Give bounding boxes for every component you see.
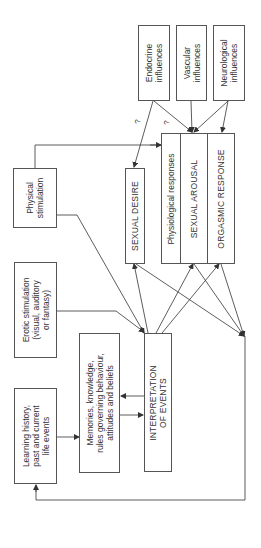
neurological-label: Neurological influences [219, 39, 239, 86]
uncertain-marker: ? [133, 119, 142, 123]
memories-box: Memories, knowledge, rules governing beh… [79, 333, 120, 473]
physiological-label: Physiological responses [166, 153, 176, 244]
response-box: Physiological responses SEXUAL AROUSAL O… [161, 133, 235, 264]
learning-history-box: Learning history, past and current life … [14, 388, 57, 484]
sexual-desire-box: SEXUAL DESIRE [125, 168, 145, 264]
learning-history-label: Learning history, past and current life … [21, 405, 51, 467]
interpretation-label: INTERPRETATION OF EVENTS [148, 365, 168, 441]
endocrine-label: Endocrine influences [144, 44, 164, 82]
endocrine-influences-box: Endocrine influences [138, 25, 170, 101]
memories-label: Memories, knowledge, rules governing beh… [85, 353, 115, 453]
neurological-influences-box: Neurological influences [213, 25, 245, 101]
physiological-section: Physiological responses [162, 134, 181, 263]
sexual-arousal-label: SEXUAL AROUSAL [189, 159, 199, 238]
erotic-stimulation-box: Erotic stimulation (visual, auditory or … [14, 262, 57, 358]
sexual-arousal-section: SEXUAL AROUSAL [180, 134, 208, 263]
sexual-desire-label: SEXUAL DESIRE [130, 181, 140, 251]
interpretation-box: INTERPRETATION OF EVENTS [144, 333, 172, 472]
physical-stimulation-box: Physical stimulation [13, 168, 57, 228]
orgasmic-section: ORGASMIC RESPONSE [208, 134, 234, 263]
vascular-influences-box: Vascular influences [176, 25, 207, 101]
orgasmic-label: ORGASMIC RESPONSE [216, 149, 226, 248]
physical-stimulation-label: Physical stimulation [25, 178, 45, 219]
uncertain-marker: ? [162, 120, 171, 124]
vascular-label: Vascular influences [182, 44, 202, 82]
erotic-stimulation-label: Erotic stimulation (visual, auditory or … [21, 278, 51, 343]
